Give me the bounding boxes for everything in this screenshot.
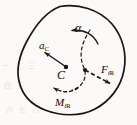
inertia-moment-label: MiR	[55, 97, 70, 108]
angular-acceleration-label: α	[75, 22, 81, 34]
acceleration-vector-path	[45, 53, 66, 67]
inertia-moment-symbol: M	[55, 96, 64, 108]
acceleration-label: aC	[39, 40, 49, 51]
inertia-moment-arc-path	[54, 88, 78, 92]
inertia-force-subscript-r: R	[110, 69, 114, 76]
inertia-moment-subscript-r: R	[66, 102, 70, 109]
rigid-body-inertia-figure: 一 二 三 四 五 六 七 八 α aC C FiR	[0, 0, 137, 125]
dashed-guide-curve-path	[72, 30, 90, 90]
acceleration-subscript: C	[45, 45, 49, 52]
acceleration-symbol: a	[39, 39, 45, 51]
body-outline-path	[18, 6, 125, 115]
center-of-mass-label: C	[57, 69, 65, 81]
inertia-force-label: FiR	[101, 64, 114, 75]
inertia-moment-subscript: iR	[64, 102, 70, 109]
inertia-force-subscript: iR	[108, 69, 114, 76]
inertia-force-symbol: F	[101, 63, 108, 75]
